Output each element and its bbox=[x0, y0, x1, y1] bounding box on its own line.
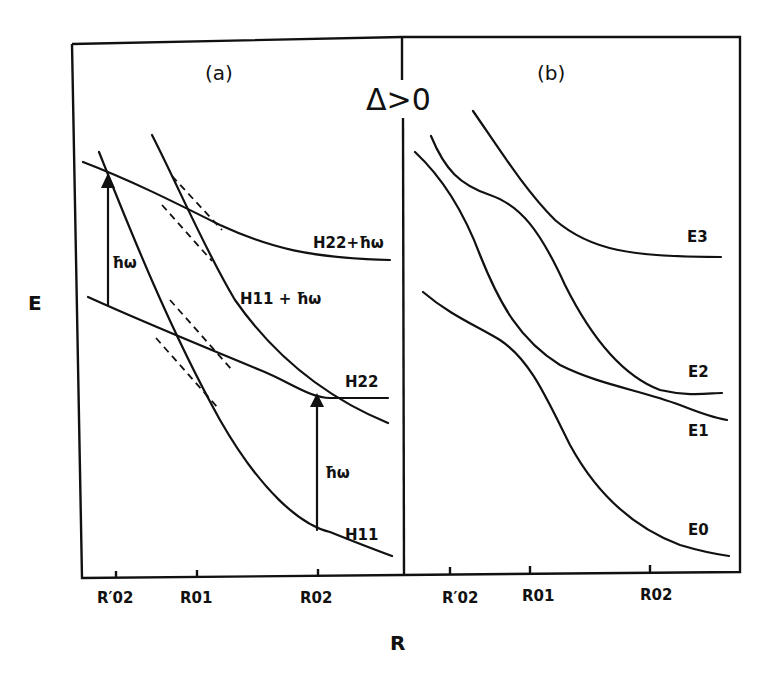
panel-b-label: (b) bbox=[537, 61, 565, 85]
tick-label-a-r02: R02 bbox=[300, 589, 332, 607]
tick-label-b-r02: R02 bbox=[640, 586, 672, 604]
tick-label-a-r01: R01 bbox=[180, 589, 212, 607]
diagram-canvas: (a) (b) Δ>0 E R H22+ħω H11 + ħω H22 H11 … bbox=[0, 0, 780, 676]
label-h11-plus-hw: H11 + ħω bbox=[240, 290, 321, 308]
tick-label-a-r02prime: R′02 bbox=[97, 589, 133, 607]
label-e2: E2 bbox=[688, 363, 709, 381]
label-h11: H11 bbox=[345, 526, 378, 544]
tick-label-b-r02prime: R′02 bbox=[442, 589, 478, 607]
dashed-lower-1 bbox=[170, 300, 232, 370]
label-hw-right: ħω bbox=[325, 464, 350, 482]
label-h22: H22 bbox=[345, 373, 378, 391]
condition-label: Δ>0 bbox=[366, 82, 431, 117]
label-e1: E1 bbox=[688, 422, 709, 440]
curve-e1 bbox=[415, 152, 727, 420]
panel-divider-bottom bbox=[403, 118, 404, 575]
figure-frame bbox=[72, 37, 740, 578]
label-h22-plus-hw: H22+ħω bbox=[313, 234, 384, 252]
tick-label-b-r01: R01 bbox=[522, 587, 554, 605]
curve-h22 bbox=[88, 297, 388, 398]
x-axis-label: R bbox=[390, 631, 405, 655]
dashed-upper-1 bbox=[172, 176, 222, 230]
label-e0: E0 bbox=[688, 521, 709, 539]
label-e3: E3 bbox=[687, 228, 708, 246]
curve-e3 bbox=[473, 111, 721, 257]
dashed-upper-2 bbox=[162, 205, 212, 261]
y-axis-label: E bbox=[28, 291, 42, 315]
curve-e0 bbox=[423, 292, 729, 556]
curve-e2 bbox=[431, 136, 722, 394]
curve-h11 bbox=[99, 152, 392, 556]
label-hw-left: ħω bbox=[112, 254, 137, 272]
panel-a-label: (a) bbox=[205, 61, 233, 85]
